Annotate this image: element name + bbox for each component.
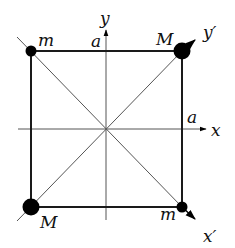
- label-top-right: M: [155, 29, 174, 49]
- y-prime-axis-label: y′: [202, 22, 217, 42]
- atom-m-top-left: [26, 46, 37, 57]
- lattice-diagram: m M M m y a x a y′ x′: [0, 0, 235, 248]
- diagonal-line-anti: [17, 51, 182, 221]
- x-prime-axis-label: x′: [203, 226, 217, 246]
- y-axis-length-label: a: [91, 31, 101, 51]
- atom-m-bottom-right: [177, 202, 188, 213]
- x-axis-label: x: [211, 120, 221, 140]
- atom-M-bottom-left: [23, 199, 40, 216]
- label-bottom-left: M: [39, 212, 58, 232]
- diagonal-line-main: [17, 37, 182, 207]
- y-axis-label: y: [99, 8, 110, 28]
- x-axis-length-label: a: [187, 107, 197, 127]
- atom-M-top-right: [174, 43, 191, 60]
- label-top-left: m: [38, 30, 54, 50]
- label-bottom-right: m: [160, 204, 176, 224]
